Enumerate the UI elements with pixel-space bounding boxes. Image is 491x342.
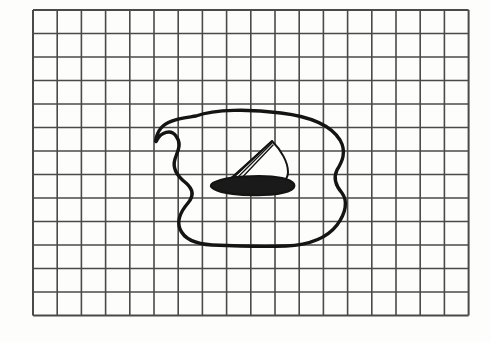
sketch-scene	[0, 0, 491, 342]
boat-hull	[211, 176, 295, 195]
sketch-canvas	[0, 0, 491, 342]
